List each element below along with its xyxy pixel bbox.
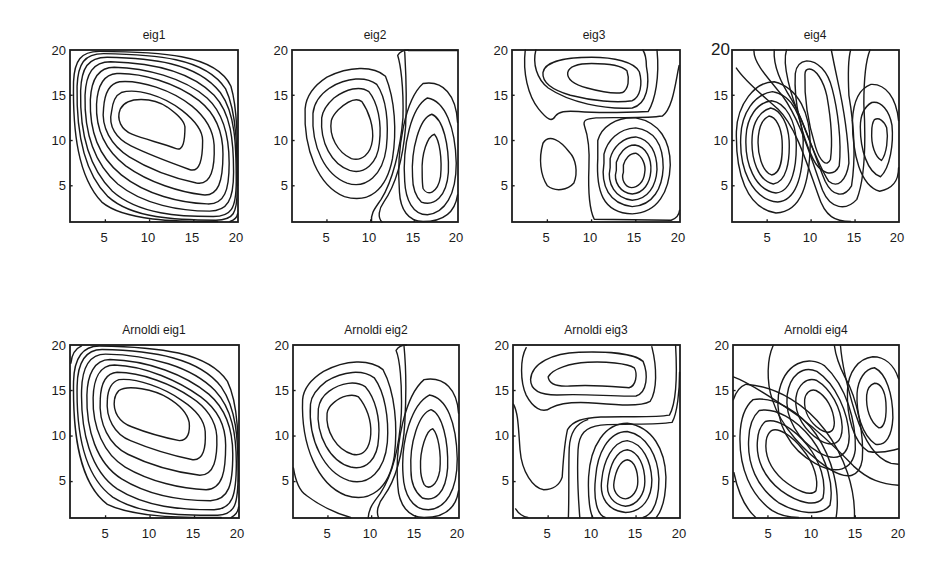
panel-title: Arnoldi eig3 bbox=[564, 323, 627, 337]
y-tick-label: 15 bbox=[258, 89, 288, 102]
y-tick-label: 5 bbox=[36, 474, 66, 487]
y-tick-label: 5 bbox=[699, 474, 729, 487]
x-tick-label: 10 bbox=[133, 231, 163, 244]
panel-title: eig4 bbox=[804, 28, 827, 42]
x-tick-label: 15 bbox=[178, 527, 208, 540]
panel-title: eig1 bbox=[143, 28, 166, 42]
axes-frame bbox=[292, 50, 458, 222]
contour-lines bbox=[305, 50, 458, 222]
axes-frame bbox=[732, 50, 899, 222]
y-tick-label: 20 bbox=[479, 339, 509, 352]
y-tick-label: 10 bbox=[36, 429, 66, 442]
x-tick-label: 10 bbox=[354, 231, 384, 244]
contour-plot-eig2 bbox=[292, 50, 458, 222]
panel-title: eig2 bbox=[364, 28, 387, 42]
contour-plot-eig4 bbox=[732, 50, 899, 222]
y-tick-label: 15 bbox=[478, 89, 508, 102]
contour-lines bbox=[513, 345, 679, 517]
y-tick-label: 15 bbox=[698, 89, 728, 102]
contour-plot-eig1 bbox=[70, 50, 238, 222]
y-tick-label: 15 bbox=[36, 384, 66, 397]
x-tick-label: 5 bbox=[532, 527, 562, 540]
panel-title: Arnoldi eig1 bbox=[122, 323, 185, 337]
x-tick-label: 10 bbox=[134, 527, 164, 540]
panel-title: eig3 bbox=[583, 28, 606, 42]
contour-lines bbox=[71, 346, 239, 518]
y-tick-label: 20 bbox=[700, 41, 730, 58]
x-tick-label: 5 bbox=[89, 231, 119, 244]
y-tick-label: 10 bbox=[479, 429, 509, 442]
x-tick-label: 15 bbox=[398, 231, 428, 244]
x-tick-label: 15 bbox=[177, 231, 207, 244]
contour-lines bbox=[733, 345, 898, 517]
y-tick-label: 20 bbox=[699, 339, 729, 352]
y-tick-label: 10 bbox=[698, 134, 728, 147]
panel-title: Arnoldi eig4 bbox=[784, 323, 847, 337]
contour-plot-arnoldi-eig3 bbox=[513, 345, 680, 518]
x-tick-label: 15 bbox=[399, 527, 429, 540]
x-tick-label: 5 bbox=[531, 231, 561, 244]
x-tick-label: 10 bbox=[575, 231, 605, 244]
x-tick-label: 20 bbox=[221, 231, 251, 244]
y-tick-label: 15 bbox=[479, 384, 509, 397]
x-tick-label: 10 bbox=[796, 527, 826, 540]
x-tick-label: 20 bbox=[883, 527, 913, 540]
contour-plot-eig3 bbox=[512, 50, 680, 222]
contour-plot-arnoldi-eig4 bbox=[733, 345, 899, 518]
y-tick-label: 5 bbox=[698, 179, 728, 192]
y-tick-label: 5 bbox=[36, 179, 66, 192]
x-tick-label: 15 bbox=[620, 527, 650, 540]
x-tick-label: 5 bbox=[312, 527, 342, 540]
x-tick-label: 5 bbox=[752, 231, 782, 244]
y-tick-label: 5 bbox=[478, 179, 508, 192]
y-tick-label: 10 bbox=[259, 429, 289, 442]
contour-lines bbox=[525, 50, 680, 220]
y-tick-label: 10 bbox=[258, 134, 288, 147]
y-tick-label: 15 bbox=[699, 384, 729, 397]
y-tick-label: 15 bbox=[259, 384, 289, 397]
contour-plot-arnoldi-eig2 bbox=[293, 345, 459, 518]
x-tick-label: 20 bbox=[664, 527, 694, 540]
y-tick-label: 10 bbox=[478, 134, 508, 147]
x-tick-label: 20 bbox=[441, 231, 471, 244]
y-tick-label: 5 bbox=[479, 474, 509, 487]
y-tick-label: 20 bbox=[258, 44, 288, 57]
y-tick-label: 20 bbox=[478, 44, 508, 57]
panel-title: Arnoldi eig2 bbox=[344, 323, 407, 337]
y-tick-label: 15 bbox=[36, 89, 66, 102]
x-tick-label: 5 bbox=[311, 231, 341, 244]
x-tick-label: 20 bbox=[442, 527, 472, 540]
y-tick-label: 20 bbox=[36, 339, 66, 352]
y-tick-label: 20 bbox=[259, 339, 289, 352]
x-tick-label: 10 bbox=[795, 231, 825, 244]
y-tick-label: 5 bbox=[258, 179, 288, 192]
contour-lines bbox=[293, 345, 458, 518]
x-tick-label: 10 bbox=[355, 527, 385, 540]
y-tick-label: 10 bbox=[36, 134, 66, 147]
x-tick-label: 15 bbox=[840, 527, 870, 540]
x-tick-label: 15 bbox=[619, 231, 649, 244]
x-tick-label: 5 bbox=[753, 527, 783, 540]
tick-marks bbox=[70, 391, 195, 518]
x-tick-label: 5 bbox=[90, 527, 120, 540]
y-tick-label: 20 bbox=[36, 44, 66, 57]
contour-plot-arnoldi-eig1 bbox=[70, 345, 239, 518]
contour-lines bbox=[736, 50, 898, 222]
y-tick-label: 5 bbox=[259, 474, 289, 487]
x-tick-label: 10 bbox=[576, 527, 606, 540]
x-tick-label: 20 bbox=[882, 231, 912, 244]
y-tick-label: 10 bbox=[699, 429, 729, 442]
x-tick-label: 20 bbox=[663, 231, 693, 244]
x-tick-label: 15 bbox=[839, 231, 869, 244]
x-tick-label: 20 bbox=[222, 527, 252, 540]
contour-lines bbox=[73, 51, 237, 221]
